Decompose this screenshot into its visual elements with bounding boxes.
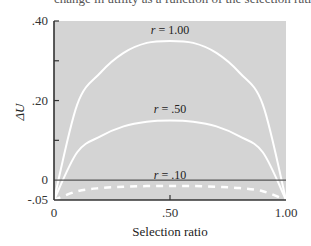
y-tick-label: .20 <box>32 93 48 108</box>
utility-chart: -.050.20.40 0.501.00 r = 1.00r = .50r = … <box>0 0 311 246</box>
y-axis-title: ΔU <box>12 102 27 122</box>
x-tick-label: 0 <box>51 205 58 220</box>
x-tick-label: .50 <box>162 205 178 220</box>
curve-label: r = .10 <box>154 168 186 182</box>
x-axis-title: Selection ratio <box>132 224 207 239</box>
curve-label: r = .50 <box>154 102 186 116</box>
y-tick-label: -.05 <box>27 192 48 207</box>
y-tick-label: .40 <box>32 13 48 28</box>
curve-label: r = 1.00 <box>151 23 189 37</box>
y-tick-label: 0 <box>42 172 49 187</box>
x-tick-label: 1.00 <box>275 205 298 220</box>
